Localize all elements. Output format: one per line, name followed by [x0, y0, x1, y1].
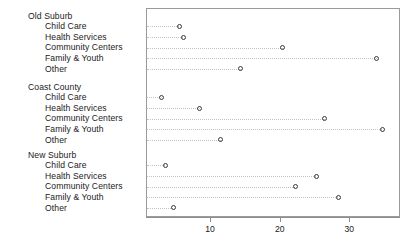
data-point-marker: [163, 163, 168, 168]
plot-panel: [146, 8, 400, 217]
x-axis-tick-label: 30: [344, 224, 354, 234]
category-label: Family & Youth: [45, 124, 104, 135]
leader-line: [147, 37, 183, 38]
category-label: Community Centers: [45, 113, 123, 124]
data-point-marker: [293, 184, 298, 189]
data-point-marker: [314, 174, 319, 179]
plot-area: [147, 9, 399, 216]
leader-line: [147, 69, 241, 70]
category-label: Community Centers: [45, 42, 123, 53]
group-title-coast-county: Coast County: [28, 82, 81, 93]
group-title-old-suburb: Old Suburb: [28, 11, 72, 22]
data-point-marker: [171, 205, 176, 210]
x-axis-tick: [280, 217, 281, 222]
category-label: Family & Youth: [45, 53, 104, 64]
leader-line: [147, 129, 382, 130]
x-axis-tick: [210, 217, 211, 222]
leader-line: [147, 140, 221, 141]
category-label: Family & Youth: [45, 192, 104, 203]
category-label-column: Old SuburbChild CareHealth ServicesCommu…: [0, 0, 146, 248]
category-label: Community Centers: [45, 181, 123, 192]
group-title-new-suburb: New Suburb: [28, 150, 76, 161]
category-label: Other: [45, 64, 67, 75]
leader-line: [147, 58, 377, 59]
data-point-marker: [280, 45, 285, 50]
category-label: Child Care: [45, 21, 87, 32]
x-axis: 102030: [146, 217, 400, 248]
leader-line: [147, 26, 179, 27]
category-label: Other: [45, 135, 67, 146]
x-axis-tick: [349, 217, 350, 222]
data-point-marker: [177, 24, 182, 29]
x-axis-line: [146, 217, 400, 218]
leader-line: [147, 176, 316, 177]
x-axis-tick-label: 10: [205, 224, 215, 234]
dot-plot-chart: Old SuburbChild CareHealth ServicesCommu…: [0, 0, 409, 248]
data-point-marker: [322, 116, 327, 121]
data-point-marker: [218, 137, 223, 142]
leader-line: [147, 108, 200, 109]
leader-line: [147, 208, 173, 209]
leader-line: [147, 187, 295, 188]
data-point-marker: [336, 195, 341, 200]
data-point-marker: [181, 35, 186, 40]
data-point-marker: [238, 66, 243, 71]
data-point-marker: [374, 56, 379, 61]
leader-line: [147, 197, 338, 198]
data-point-marker: [197, 106, 202, 111]
category-label: Child Care: [45, 92, 87, 103]
category-label: Health Services: [45, 32, 107, 43]
category-label: Other: [45, 203, 67, 214]
category-label: Health Services: [45, 171, 107, 182]
data-point-marker: [159, 95, 164, 100]
leader-line: [147, 119, 325, 120]
category-label: Health Services: [45, 103, 107, 114]
category-label: Child Care: [45, 160, 87, 171]
x-axis-tick-label: 20: [275, 224, 285, 234]
leader-line: [147, 48, 283, 49]
data-point-marker: [380, 127, 385, 132]
